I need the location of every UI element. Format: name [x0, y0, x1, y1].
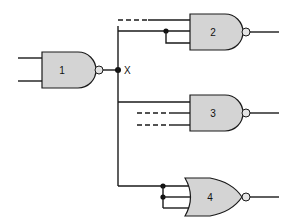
logic-circuit-diagram: 1 2 3 4 X — [0, 0, 299, 217]
gate-2-nand — [190, 14, 243, 50]
gate-4-label: 4 — [207, 192, 213, 203]
gate-1-nand — [42, 52, 96, 88]
gate2-inverter-bubble — [242, 28, 250, 36]
gate1-inverter-bubble — [95, 66, 103, 74]
gate2-input-bottom — [166, 31, 190, 43]
circuit-canvas: 1 2 3 4 X — [0, 0, 299, 217]
gate-3-nand — [190, 95, 243, 131]
gate4-inverter-bubble — [242, 193, 250, 201]
gate-4-nor — [185, 178, 242, 216]
gate-1-label: 1 — [59, 65, 65, 76]
gate3-inverter-bubble — [242, 109, 250, 117]
gate-3-label: 3 — [210, 108, 216, 119]
node-x-label: X — [124, 65, 131, 76]
gate-2-label: 2 — [210, 27, 216, 38]
